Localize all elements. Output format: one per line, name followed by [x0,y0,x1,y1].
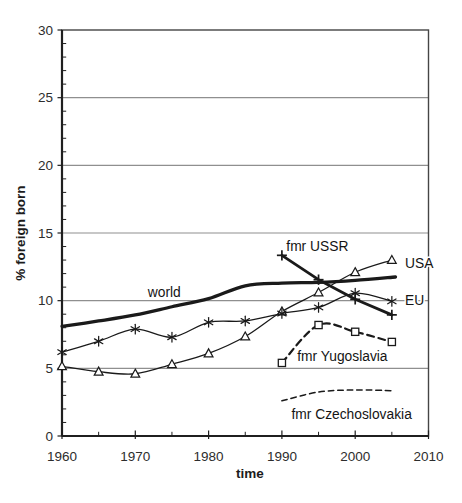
y-tick-label: 0 [45,429,53,444]
y-axis-title: % foreign born [13,185,28,280]
y-tick-label: 10 [38,293,53,308]
eu-marker [94,336,102,346]
eu-line [62,293,392,352]
fmr-czechoslovakia-line [282,390,392,401]
grid-layer [62,98,429,369]
x-tick-label: 1960 [47,449,77,464]
fmr-yugoslavia-label: fmr Yugoslavia [297,349,388,364]
x-tick-label: 1990 [267,449,297,464]
fmr-ussr-label: fmr USSR [286,239,348,254]
fmr-ussr-marker [387,310,397,320]
eu-label: EU [405,293,424,308]
usa-marker [58,362,67,370]
series-fmr-ussr [277,250,397,320]
foreign-born-chart: 051015202530196019701980199020002010 wor… [0,0,462,503]
world-line [62,277,396,326]
series-eu [58,288,396,356]
x-tick-label: 2010 [413,449,443,464]
usa-marker [387,255,396,263]
y-tick-label: 20 [38,158,53,173]
fmr-yugoslavia-marker [388,338,395,345]
series-world [62,277,396,326]
fmr-yugoslavia-marker [315,321,322,328]
eu-marker [388,297,396,307]
x-tick-label: 1980 [194,449,224,464]
eu-marker [58,347,66,357]
fmr-yugoslavia-marker [352,328,359,335]
fmr-yugoslavia-marker [278,359,285,366]
y-tick-label: 15 [38,226,53,241]
screenshot-root: 051015202530196019701980199020002010 wor… [0,0,462,503]
x-tick-label: 1970 [120,449,150,464]
fmr-ussr-line [282,255,392,315]
y-tick-label: 25 [38,90,53,105]
eu-marker [314,303,322,313]
series-layer [58,250,397,401]
usa-marker [314,288,323,296]
x-axis-title: time [236,466,264,481]
x-tick-label: 2000 [340,449,370,464]
world-label: world [147,285,181,300]
y-tick-label: 5 [45,361,53,376]
usa-marker [241,332,250,340]
series-fmr-czechoslovakia [282,390,392,401]
y-tick-label: 30 [38,23,53,38]
usa-label: USA [405,256,434,271]
chart-svg: 051015202530196019701980199020002010 wor… [0,0,462,503]
tick-layer: 051015202530196019701980199020002010 [38,23,444,464]
fmr-czechoslovakia-label: fmr Czechoslovakia [291,407,412,422]
